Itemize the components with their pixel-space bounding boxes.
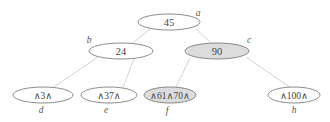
tree-diagram: 45 a 24 b 90 c ∧3∧ d ∧37∧ e ∧61∧70∧ f ∧1…: [0, 0, 330, 122]
node-e-value: ∧37∧: [97, 91, 120, 101]
node-c-value: 90: [212, 46, 223, 57]
edge-a-c: [196, 29, 211, 43]
node-d-label: d: [39, 105, 44, 115]
node-b-value: 24: [116, 46, 127, 57]
edge-a-b: [133, 29, 150, 43]
node-h-value: ∧100∧: [280, 91, 308, 101]
node-d: ∧3∧ d: [13, 87, 73, 115]
node-c-label: c: [247, 35, 252, 45]
node-e: ∧37∧ e: [81, 87, 137, 115]
edge-c-f: [176, 58, 190, 87]
node-b: 24 b: [87, 35, 153, 59]
node-e-label: e: [104, 105, 108, 115]
node-a-label: a: [196, 8, 201, 18]
node-a-value: 45: [164, 17, 175, 28]
edge-b-d: [54, 57, 98, 87]
node-f-value: ∧61∧70∧: [150, 91, 190, 101]
edge-c-h: [246, 57, 291, 88]
node-d-value: ∧3∧: [34, 91, 53, 101]
node-h: ∧100∧ h: [268, 87, 320, 115]
node-c: 90 c: [185, 35, 252, 59]
node-a: 45 a: [138, 8, 201, 30]
edge-b-e: [123, 58, 134, 88]
node-f: ∧61∧70∧ f: [144, 87, 196, 116]
node-f-label: f: [166, 106, 170, 116]
node-h-label: h: [292, 105, 297, 115]
node-b-label: b: [87, 35, 92, 45]
